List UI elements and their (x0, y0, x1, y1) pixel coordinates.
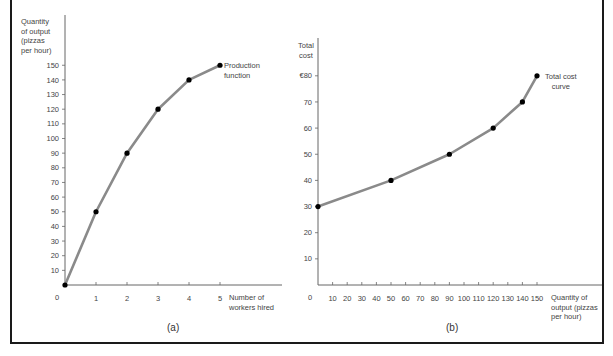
y-tick-label: 90 (51, 149, 59, 158)
x-tick-label: 3 (156, 294, 160, 303)
data-point-marker (186, 77, 191, 82)
y-tick-label: 100 (46, 134, 59, 143)
data-point-marker (491, 126, 496, 131)
panel-b-ylabel: Total cost (295, 41, 317, 60)
y-tick-label: 70 (51, 178, 59, 187)
x-tick-label: 40 (372, 294, 380, 303)
y-tick-label: 110 (47, 119, 59, 128)
y-tick-label: 30 (304, 202, 312, 211)
panel-b-tag: (b) (446, 322, 458, 333)
y-tick-label: 50 (51, 207, 59, 216)
y-tick-label: 80 (51, 163, 59, 172)
x-tick-label: 90 (445, 294, 453, 303)
y-tick-label: 20 (304, 228, 312, 237)
panel-a-tag: (a) (167, 322, 179, 333)
y-tick-label: €80 (299, 71, 312, 80)
x-tick-label: 1 (94, 294, 98, 303)
data-point-marker (62, 282, 67, 287)
data-point-marker (155, 107, 160, 112)
y-tick-label: 40 (304, 176, 312, 185)
panel-b-origin: 0 (308, 293, 312, 303)
data-point-marker (315, 204, 320, 209)
panel-a-xlabel: Number of workers hired (229, 293, 274, 312)
panel-b-curve-label: Total cost curve (545, 72, 577, 91)
x-tick-label: 50 (387, 294, 395, 303)
y-tick-label: 70 (304, 98, 312, 107)
data-point-marker (93, 209, 98, 214)
total-cost-curve (318, 76, 537, 207)
x-tick-label: 4 (187, 294, 191, 303)
x-tick-label: 20 (343, 294, 351, 303)
y-tick-label: 60 (304, 124, 312, 133)
x-tick-label: 60 (401, 294, 409, 303)
y-tick-label: 150 (46, 61, 59, 70)
y-tick-label: 10 (51, 266, 59, 275)
x-tick-label: 110 (473, 294, 485, 303)
x-tick-label: 150 (531, 294, 544, 303)
x-tick-label: 70 (416, 294, 424, 303)
y-tick-label: 50 (304, 150, 312, 159)
data-point-marker (124, 151, 129, 156)
x-tick-label: 140 (516, 294, 529, 303)
panel-b-xlabel: Quantity of output (pizzas per hour) (551, 293, 598, 322)
x-tick-label: 10 (328, 294, 336, 303)
y-tick-label: 10 (304, 254, 312, 263)
data-point-marker (520, 99, 525, 104)
y-tick-label: 140 (46, 76, 59, 85)
x-tick-label: 80 (431, 294, 439, 303)
y-tick-label: 120 (46, 105, 59, 114)
x-tick-label: 120 (487, 294, 500, 303)
y-tick-label: 20 (51, 251, 59, 260)
panel-a-ylabel: Quantity of output (pizzas per hour) (21, 17, 61, 55)
data-point-marker (388, 178, 393, 183)
x-tick-label: 30 (358, 294, 366, 303)
production-function-curve (65, 65, 220, 285)
panel-a-origin: 0 (55, 293, 59, 303)
panel-a-curve-label: Production function (224, 61, 260, 80)
y-tick-label: 60 (51, 193, 59, 202)
x-tick-label: 2 (125, 294, 129, 303)
data-point-marker (447, 152, 452, 157)
data-point-marker (534, 73, 539, 78)
y-tick-label: 30 (51, 237, 59, 246)
y-tick-label: 40 (51, 222, 59, 231)
x-tick-label: 130 (502, 294, 515, 303)
y-tick-label: 130 (46, 90, 59, 99)
x-tick-label: 100 (458, 294, 471, 303)
data-point-marker (217, 63, 222, 68)
x-tick-label: 5 (218, 294, 222, 303)
